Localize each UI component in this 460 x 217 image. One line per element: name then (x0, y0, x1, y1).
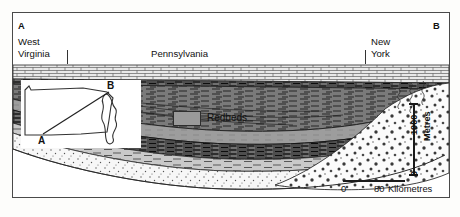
vertical-scale-max-label: 1000 (409, 115, 419, 135)
horizontal-scale-max-label: 80 (374, 183, 384, 194)
endpoint-label-a: A (18, 21, 25, 31)
horizontal-scale-min-label: 0 (341, 183, 346, 194)
locator-map: A B (21, 80, 141, 148)
vertical-scale-unit-label: Metres (422, 111, 432, 141)
horizontal-scale-unit-label: Kilometres (388, 183, 432, 194)
label-new-york-line1: New (371, 36, 390, 47)
svg-text:B: B (107, 80, 114, 91)
figure-frame: A B West Virginia Pennsylvania New York … (12, 12, 450, 198)
figure-root: A B West Virginia Pennsylvania New York … (0, 0, 460, 217)
legend-label-redbeds: Redbeds (207, 112, 247, 123)
label-pennsylvania: Pennsylvania (151, 48, 208, 59)
label-west-virginia-line1: West (18, 36, 40, 47)
svg-text:A: A (38, 135, 45, 146)
label-west-virginia-line2: Virginia (18, 48, 50, 59)
legend-swatch-redbeds (173, 111, 201, 126)
vertical-scale-top-tick (409, 103, 418, 105)
horizontal-scale-bar (343, 180, 405, 182)
wv-pa-boundary-tick (67, 50, 68, 64)
label-new-york-line2: York (371, 48, 390, 59)
endpoint-label-b: B (433, 21, 440, 31)
vertical-scale-min-label: 0 (409, 171, 419, 176)
pa-ny-boundary-tick (365, 50, 366, 64)
